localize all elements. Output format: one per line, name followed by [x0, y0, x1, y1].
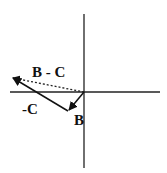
vector-diagram: [0, 0, 167, 173]
label-neg-c: -C: [22, 102, 38, 117]
label-b: B: [74, 113, 84, 128]
label-b-minus-c: B - C: [32, 65, 65, 80]
vector-b: [69, 92, 84, 110]
